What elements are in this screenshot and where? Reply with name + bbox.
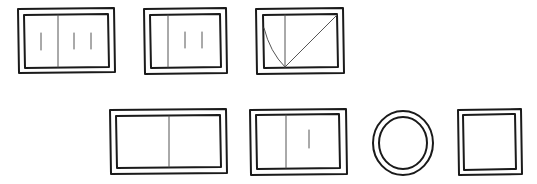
diagram-canvas bbox=[0, 0, 537, 184]
outer-circle bbox=[373, 111, 433, 175]
inner-frame bbox=[24, 14, 109, 68]
panel-4 bbox=[110, 109, 227, 174]
outer-frame bbox=[256, 8, 344, 74]
inner-frame bbox=[256, 114, 340, 169]
panel-1 bbox=[18, 8, 115, 73]
circle-6 bbox=[373, 111, 433, 175]
inner-circle bbox=[379, 117, 427, 169]
inner-frame bbox=[263, 14, 338, 68]
diagonal-line bbox=[285, 15, 337, 67]
arc-curve bbox=[264, 28, 285, 67]
outer-frame bbox=[18, 8, 115, 73]
inner-frame bbox=[463, 114, 516, 170]
outer-frame bbox=[250, 109, 347, 175]
panel-3 bbox=[256, 8, 344, 74]
panel-5 bbox=[250, 109, 347, 175]
panel-2 bbox=[144, 8, 227, 74]
outer-frame bbox=[458, 109, 522, 175]
square-7 bbox=[458, 109, 522, 175]
